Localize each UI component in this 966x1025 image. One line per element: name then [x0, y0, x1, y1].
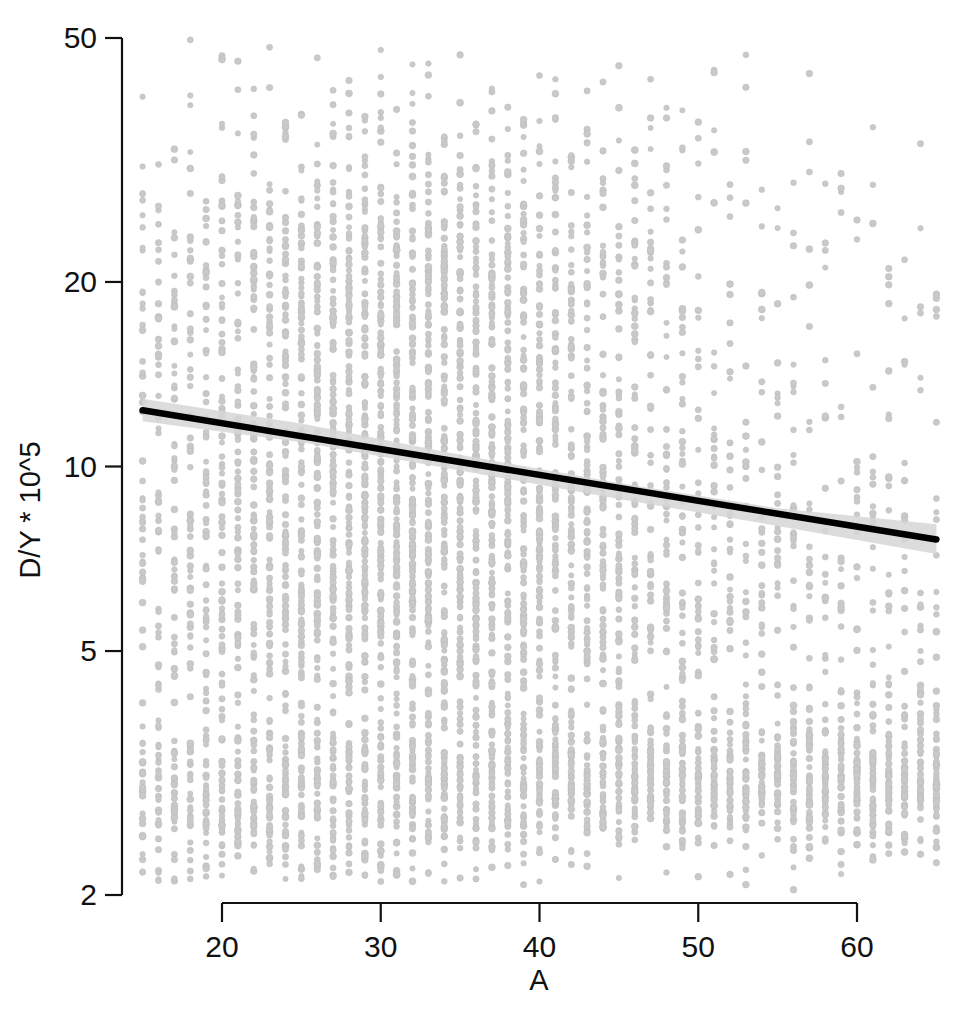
scatter-point: [520, 838, 526, 844]
scatter-point: [394, 194, 399, 199]
scatter-point: [425, 690, 432, 697]
scatter-point: [663, 426, 669, 432]
scatter-point: [282, 807, 289, 814]
scatter-point: [361, 853, 368, 860]
scatter-point: [536, 849, 543, 856]
scatter-point: [902, 703, 908, 709]
scatter-point: [711, 749, 716, 754]
scatter-point: [695, 580, 701, 586]
scatter-point: [505, 190, 510, 195]
scatter-point: [679, 837, 686, 844]
scatter-point: [219, 57, 225, 63]
scatter-point: [282, 228, 289, 235]
scatter-point: [774, 547, 780, 553]
scatter-point: [505, 672, 511, 678]
scatter-point: [505, 365, 510, 370]
scatter-point: [584, 301, 590, 307]
scatter-point: [727, 484, 733, 490]
scatter-point: [679, 613, 685, 619]
scatter-point: [632, 706, 638, 712]
scatter-point: [346, 532, 352, 538]
scatter-point: [330, 121, 335, 126]
scatter-point: [203, 727, 209, 733]
scatter-point: [774, 772, 781, 779]
scatter-point: [409, 281, 416, 288]
scatter-point: [473, 636, 479, 642]
scatter-point: [219, 301, 225, 307]
scatter-point: [377, 620, 384, 627]
scatter-point: [521, 575, 527, 581]
scatter-point: [394, 262, 400, 268]
scatter-point: [346, 301, 353, 308]
scatter-point: [505, 234, 511, 240]
scatter-point: [393, 734, 400, 741]
scatter-point: [790, 799, 796, 805]
scatter-point: [695, 364, 701, 370]
scatter-point: [600, 176, 606, 182]
scatter-point: [282, 330, 289, 337]
scatter-point: [615, 754, 622, 761]
scatter-point: [267, 861, 273, 867]
scatter-point: [187, 190, 193, 196]
scatter-point: [441, 704, 448, 711]
scatter-point: [267, 303, 273, 309]
scatter-point: [441, 527, 447, 533]
scatter-point: [759, 728, 765, 734]
scatter-point: [283, 451, 289, 457]
scatter-point: [283, 375, 289, 381]
scatter-point: [537, 251, 543, 257]
scatter-point: [584, 222, 591, 229]
scatter-point: [377, 493, 384, 500]
scatter-point: [140, 505, 146, 511]
scatter-point: [473, 122, 480, 129]
scatter-point: [696, 447, 701, 452]
scatter-point: [314, 357, 321, 364]
scatter-point: [553, 546, 559, 552]
scatter-point: [140, 724, 146, 730]
scatter-point: [282, 651, 288, 657]
scatter-point: [330, 854, 336, 860]
scatter-point: [425, 870, 431, 876]
scatter-point: [140, 498, 146, 504]
scatter-point: [632, 295, 638, 301]
scatter-point: [457, 784, 463, 790]
scatter-point: [394, 506, 399, 511]
scatter-point: [362, 784, 367, 789]
scatter-point: [790, 847, 796, 853]
scatter-point: [616, 476, 622, 482]
scatter-point: [489, 385, 494, 390]
scatter-point: [568, 287, 574, 293]
scatter-point: [441, 785, 447, 791]
scatter-point: [235, 789, 241, 795]
scatter-point: [330, 710, 336, 716]
scatter-point: [584, 799, 590, 805]
scatter-point: [934, 839, 940, 845]
scatter-point: [616, 654, 621, 659]
scatter-point: [632, 809, 638, 815]
scatter-point: [806, 617, 812, 623]
scatter-point: [299, 168, 304, 173]
scatter-point: [187, 601, 194, 608]
scatter-point: [378, 640, 384, 646]
scatter-point: [473, 272, 479, 278]
scatter-point: [536, 593, 543, 600]
scatter-point: [251, 672, 257, 678]
scatter-point: [441, 425, 447, 431]
scatter-point: [393, 760, 400, 767]
scatter-point: [457, 614, 462, 619]
scatter-point: [520, 216, 527, 223]
scatter-point: [314, 264, 320, 270]
scatter-point: [743, 682, 749, 688]
scatter-point: [330, 288, 335, 293]
scatter-point: [790, 230, 796, 236]
scatter-point: [473, 317, 479, 323]
scatter-point: [615, 425, 622, 432]
scatter-point: [759, 600, 765, 606]
scatter-point: [553, 722, 559, 728]
scatter-point: [203, 375, 209, 381]
scatter-point: [886, 850, 892, 856]
scatter-point: [870, 749, 876, 755]
scatter-point: [441, 360, 447, 366]
scatter-point: [521, 741, 527, 747]
scatter-point: [298, 734, 305, 741]
